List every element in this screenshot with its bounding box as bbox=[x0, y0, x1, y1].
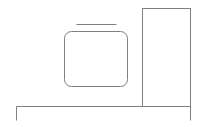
tall-rectangle bbox=[143, 9, 191, 107]
rounded-box bbox=[65, 32, 128, 87]
diagram-canvas bbox=[0, 0, 198, 127]
